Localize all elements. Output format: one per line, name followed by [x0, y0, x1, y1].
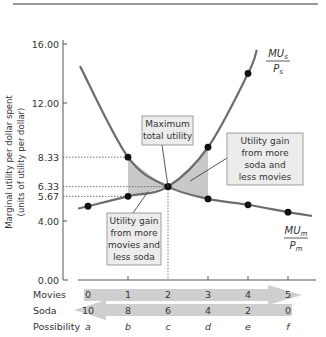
- row-label-movies: Movies: [33, 289, 66, 300]
- mu-movies-label-denominator: Pm: [290, 240, 303, 253]
- mu-movies-point: [285, 209, 292, 216]
- movies-value: 0: [85, 289, 91, 300]
- annotation-leader-max: [162, 145, 168, 187]
- y-tick-label: 6.33: [38, 181, 59, 192]
- row-label-possibility: Possibility: [33, 321, 80, 332]
- soda-arrow: [74, 300, 292, 320]
- soda-value: 8: [125, 305, 131, 316]
- mu-movies-point: [125, 154, 132, 161]
- possibility-value: e: [245, 321, 251, 332]
- mu-soda-point: [85, 203, 92, 210]
- possibility-value: d: [205, 321, 212, 332]
- soda-value: 4: [205, 305, 211, 316]
- movies-value: 5: [285, 289, 291, 300]
- y-tick-label: 8.33: [38, 152, 59, 163]
- soda-value: 0: [285, 305, 291, 316]
- annotation-text-left: Utility gain: [110, 216, 159, 226]
- mu-movies-label-numerator: MUm: [285, 225, 308, 238]
- row-label-soda: Soda: [33, 305, 57, 316]
- possibility-value: a: [85, 321, 91, 332]
- annotation-text-right: Utility gain: [241, 136, 290, 146]
- annotation-text-max: total utility: [143, 131, 193, 141]
- movies-value: 3: [205, 289, 211, 300]
- possibility-table: Movies012345Soda1086420Possibilityabcdef: [33, 285, 302, 332]
- movies-arrow: [84, 285, 302, 305]
- mu-movies-point: [245, 201, 252, 208]
- mu-soda-point: [205, 144, 212, 151]
- possibility-value: b: [125, 321, 131, 332]
- movies-value: 2: [165, 289, 171, 300]
- movies-value: 4: [245, 289, 251, 300]
- mu-soda-label-denominator: Ps: [273, 63, 283, 76]
- soda-value: 10: [82, 305, 94, 316]
- possibility-value: c: [165, 321, 171, 332]
- movies-value: 1: [125, 289, 131, 300]
- annotation-text-right: less movies: [239, 172, 292, 182]
- mu-soda-point: [245, 70, 252, 77]
- y-tick-label: 16.00: [32, 39, 59, 50]
- annotation-text-right: soda and: [244, 160, 285, 170]
- y-tick-label: 5.67: [38, 191, 59, 202]
- annotation-text-left: from more: [110, 228, 158, 238]
- mu-movies-point: [205, 195, 212, 202]
- mu-soda-label-numerator: MUs: [268, 48, 288, 61]
- possibility-value: f: [286, 321, 291, 332]
- y-axis-sublabel: (units of utility per dollar): [16, 108, 26, 217]
- soda-value: 2: [245, 305, 251, 316]
- annotation-text-max: Maximum: [145, 119, 189, 129]
- annotation-text-left: movies and: [108, 240, 160, 250]
- annotation-text-right: from more: [241, 148, 289, 158]
- annotation-text-left: less soda: [113, 252, 155, 262]
- y-tick-label: 0.00: [38, 275, 59, 286]
- soda-value: 6: [165, 305, 171, 316]
- mu-soda-point: [125, 193, 132, 200]
- y-tick-label: 12.00: [32, 98, 59, 109]
- marginal-utility-chart: 0.004.005.676.338.3312.0016.00 MUsPsMUmP…: [0, 0, 326, 337]
- y-axis-label: Marginal utility per dollar spent: [4, 95, 14, 229]
- y-tick-label: 4.00: [38, 216, 59, 227]
